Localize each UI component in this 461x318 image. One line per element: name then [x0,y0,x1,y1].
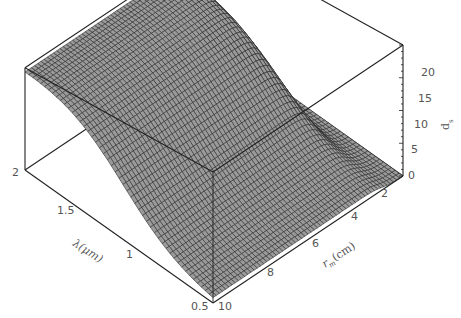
svg-text:s: s [447,119,455,123]
rm-tick-4: 4 [351,210,358,223]
lambda-tick-0.5: 0.5 [191,300,209,313]
rm-tick-10: 10 [218,300,232,313]
rm-tick-8: 8 [267,266,274,279]
z-tick-10: 10 [414,118,428,131]
z-axis-label: d s [439,119,455,130]
svg-text:d: d [439,123,452,130]
z-tick-15: 15 [418,92,432,105]
axis-ticks [399,45,403,176]
lambda-tick-1.5: 1.5 [57,204,75,217]
z-tick-5: 5 [411,143,418,156]
z-tick-0: 0 [408,169,415,182]
rm-tick-6: 6 [312,237,319,250]
lambda-tick-2: 2 [12,166,19,179]
surface-plot: 20 15 10 5 0 d s 2 1.5 1 0.5 λ(μm) 10 8 … [0,0,461,318]
surface-plot-canvas: 20 15 10 5 0 d s 2 1.5 1 0.5 λ(μm) 10 8 … [0,0,461,318]
lambda-axis-label: λ(μm) [70,236,106,265]
rm-axis-label: r m (cm) [320,239,359,272]
lambda-tick-1: 1 [126,248,133,261]
rm-tick-2: 2 [381,187,388,200]
svg-text:(cm): (cm) [330,239,358,264]
z-tick-20: 20 [421,66,435,79]
